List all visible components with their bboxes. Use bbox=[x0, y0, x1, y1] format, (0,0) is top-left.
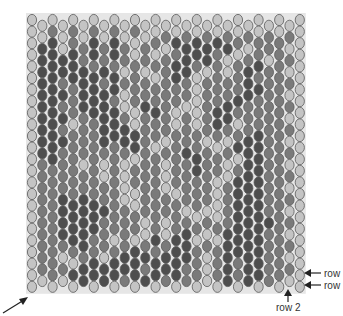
bead bbox=[161, 125, 170, 136]
bead bbox=[233, 61, 242, 72]
bead bbox=[213, 246, 222, 257]
bead bbox=[141, 159, 150, 170]
bead bbox=[295, 142, 304, 153]
bead bbox=[58, 229, 67, 240]
bead bbox=[38, 136, 47, 147]
bead bbox=[233, 223, 242, 234]
bead bbox=[203, 113, 212, 124]
bead bbox=[79, 183, 88, 194]
bead bbox=[69, 258, 78, 269]
bead bbox=[151, 270, 160, 281]
bead bbox=[110, 223, 119, 234]
bead bbox=[89, 258, 98, 269]
bead bbox=[141, 125, 150, 136]
bead bbox=[89, 200, 98, 211]
bead bbox=[254, 223, 263, 234]
bead bbox=[151, 212, 160, 223]
bead bbox=[48, 258, 57, 269]
bead bbox=[275, 188, 284, 199]
bead bbox=[151, 130, 160, 141]
bead bbox=[172, 188, 181, 199]
bead bbox=[151, 177, 160, 188]
bead bbox=[233, 188, 242, 199]
bead bbox=[295, 270, 304, 281]
bead bbox=[48, 165, 57, 176]
bead bbox=[161, 20, 170, 31]
bead bbox=[233, 84, 242, 95]
bead bbox=[79, 194, 88, 205]
bead bbox=[244, 113, 253, 124]
bead bbox=[89, 130, 98, 141]
bead bbox=[285, 101, 294, 112]
bead bbox=[223, 241, 232, 252]
bead bbox=[172, 258, 181, 269]
bead bbox=[182, 206, 191, 217]
bead bbox=[141, 20, 150, 31]
bead bbox=[203, 148, 212, 159]
bead bbox=[264, 241, 273, 252]
bead bbox=[275, 142, 284, 153]
bead bbox=[38, 217, 47, 228]
bead bbox=[27, 14, 36, 25]
bead bbox=[192, 281, 201, 292]
bead bbox=[233, 270, 242, 281]
bead bbox=[285, 78, 294, 89]
bead bbox=[182, 183, 191, 194]
bead bbox=[89, 61, 98, 72]
bead bbox=[58, 217, 67, 228]
bead bbox=[172, 223, 181, 234]
bead bbox=[110, 142, 119, 153]
bead bbox=[130, 26, 139, 37]
bead bbox=[182, 43, 191, 54]
bead bbox=[295, 235, 304, 246]
bead bbox=[172, 270, 181, 281]
bead bbox=[79, 264, 88, 275]
row-2-label: row 2 bbox=[276, 303, 300, 313]
bead bbox=[244, 264, 253, 275]
bead bbox=[141, 217, 150, 228]
bead bbox=[264, 78, 273, 89]
bead bbox=[192, 61, 201, 72]
bead bbox=[295, 61, 304, 72]
bead bbox=[244, 125, 253, 136]
bead bbox=[254, 281, 263, 292]
bead bbox=[223, 264, 232, 275]
bead bbox=[192, 26, 201, 37]
bead bbox=[141, 113, 150, 124]
bead bbox=[141, 67, 150, 78]
bead bbox=[244, 206, 253, 217]
bead bbox=[275, 26, 284, 37]
bead bbox=[130, 14, 139, 25]
bead bbox=[38, 171, 47, 182]
bead bbox=[275, 72, 284, 83]
bead bbox=[120, 78, 129, 89]
bead bbox=[254, 107, 263, 118]
bead bbox=[141, 136, 150, 147]
bead bbox=[203, 217, 212, 228]
bead bbox=[161, 101, 170, 112]
bead bbox=[182, 20, 191, 31]
bead bbox=[203, 90, 212, 101]
bead bbox=[172, 142, 181, 153]
bead bbox=[161, 90, 170, 101]
bead bbox=[295, 72, 304, 83]
bead bbox=[27, 200, 36, 211]
bead bbox=[89, 142, 98, 153]
bead bbox=[161, 229, 170, 240]
bead bbox=[100, 148, 109, 159]
bead bbox=[275, 177, 284, 188]
bead bbox=[244, 67, 253, 78]
bead bbox=[244, 275, 253, 286]
bead bbox=[69, 119, 78, 130]
bead bbox=[141, 194, 150, 205]
bead bbox=[69, 61, 78, 72]
bead bbox=[130, 107, 139, 118]
bead bbox=[89, 223, 98, 234]
bead bbox=[285, 136, 294, 147]
bead bbox=[58, 113, 67, 124]
bead bbox=[172, 61, 181, 72]
bead bbox=[264, 206, 273, 217]
bead bbox=[89, 38, 98, 49]
bead bbox=[58, 101, 67, 112]
bead bbox=[27, 235, 36, 246]
